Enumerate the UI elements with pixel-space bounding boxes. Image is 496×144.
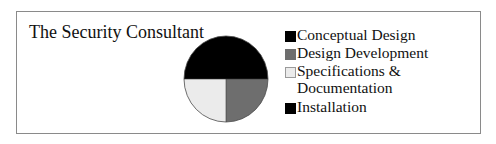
legend-label: Conceptual Design [297, 26, 415, 43]
chart-legend: Conceptual Design Design Development Spe… [285, 26, 447, 116]
legend-label: Design Development [297, 44, 428, 61]
legend-item-installation: Installation [285, 98, 447, 116]
legend-swatch-light-gray-icon [285, 67, 296, 78]
legend-label: Installation [297, 98, 367, 115]
legend-swatch-black-icon [285, 31, 296, 42]
slice-specifications-documentation [184, 79, 226, 122]
legend-item-conceptual-design: Conceptual Design [285, 26, 447, 44]
legend-swatch-black-icon [285, 103, 296, 114]
legend-item-design-development: Design Development [285, 44, 447, 62]
slice-conceptual-design [184, 36, 268, 79]
pie-chart [183, 35, 269, 123]
legend-label: Specifications & Documentation [297, 62, 447, 96]
legend-label-line1: Specifications & [297, 62, 401, 79]
legend-label-line2: Documentation [297, 79, 393, 96]
slice-design-development [226, 79, 268, 122]
chart-title: The Security Consultant [29, 22, 204, 43]
legend-swatch-dark-gray-icon [285, 49, 296, 60]
legend-item-specifications-documentation: Specifications & Documentation [285, 62, 447, 98]
